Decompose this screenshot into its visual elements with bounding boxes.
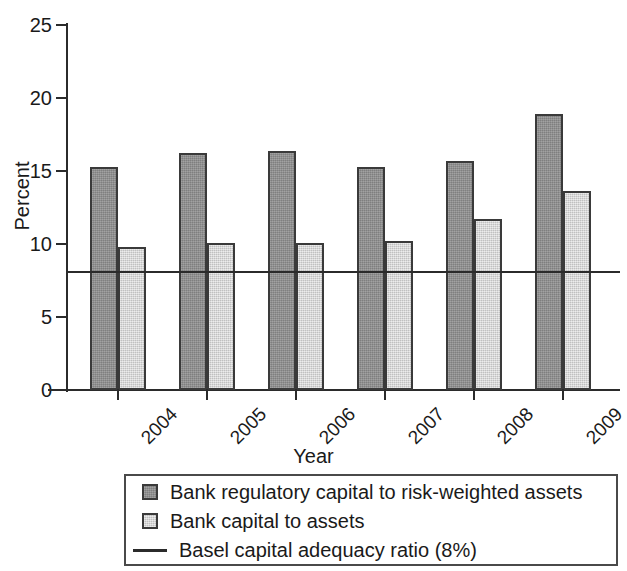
x-tick-label-2009: 2009: [582, 404, 626, 448]
x-tick-label-2006: 2006: [315, 404, 359, 448]
x-tick-mark-2006: [295, 389, 297, 400]
x-axis-label: Year: [0, 445, 627, 467]
y-tick-label-15: 15: [8, 161, 52, 181]
x-tick-mark-2005: [206, 389, 208, 400]
x-tick-mark-2009: [562, 389, 564, 400]
bar-capital-2004: [118, 247, 146, 390]
legend-swatch-dark-icon: [142, 484, 158, 500]
bar-regulatory-2007: [357, 167, 385, 390]
x-tick-mark-2004: [117, 389, 119, 400]
bar-capital-2007: [385, 241, 413, 390]
x-tick-label-2005: 2005: [226, 404, 270, 448]
legend-item-basel-ratio: Basel capital adequacy ratio (8%): [142, 536, 477, 564]
y-tick-label-25: 25: [8, 15, 52, 35]
x-tick-mark-2008: [473, 389, 475, 400]
bar-capital-2006: [296, 243, 324, 390]
legend-label-regulatory-capital: Bank regulatory capital to risk-weighted…: [170, 481, 582, 503]
chart-legend: Bank regulatory capital to risk-weighted…: [124, 474, 618, 566]
legend-item-regulatory-capital: Bank regulatory capital to risk-weighted…: [142, 478, 582, 506]
y-tick-label-10: 10: [8, 234, 52, 254]
basel-threshold-line: [66, 271, 620, 273]
bar-capital-2009: [563, 191, 591, 390]
bar-capital-2005: [207, 243, 235, 390]
x-tick-label-2007: 2007: [404, 404, 448, 448]
y-tick-label-20: 20: [8, 88, 52, 108]
legend-label-basel-ratio: Basel capital adequacy ratio (8%): [179, 539, 477, 561]
legend-swatch-light-icon: [142, 513, 158, 529]
legend-line-marker-icon: [133, 549, 167, 552]
plot-area: [66, 25, 620, 390]
bar-regulatory-2008: [446, 161, 474, 390]
x-tick-label-2004: 2004: [137, 404, 181, 448]
bar-capital-2008: [474, 219, 502, 390]
y-tick-label-5: 5: [8, 307, 52, 327]
x-tick-label-2008: 2008: [493, 404, 537, 448]
bar-regulatory-2009: [535, 114, 563, 390]
y-tick-label-0: 0: [8, 380, 52, 400]
x-tick-mark-2007: [384, 389, 386, 400]
legend-item-bank-capital: Bank capital to assets: [142, 507, 365, 535]
bar-regulatory-2004: [90, 167, 118, 390]
legend-label-bank-capital: Bank capital to assets: [170, 510, 365, 532]
chart-figure: Percent 25 20 15 10 5 0: [0, 0, 627, 571]
